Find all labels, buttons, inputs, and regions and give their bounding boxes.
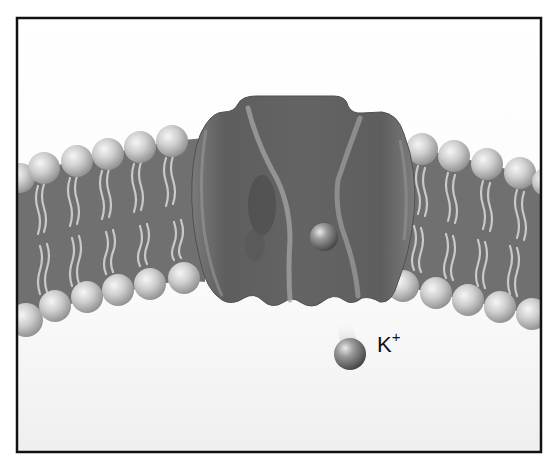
free-ion	[334, 338, 366, 370]
ion-charge: +	[392, 328, 401, 345]
ion-channel-diagram	[0, 0, 559, 464]
ion-label: K+	[377, 334, 400, 356]
ion-element: K	[377, 332, 392, 357]
ion-in-channel	[310, 223, 338, 251]
channel-protein	[192, 96, 415, 306]
